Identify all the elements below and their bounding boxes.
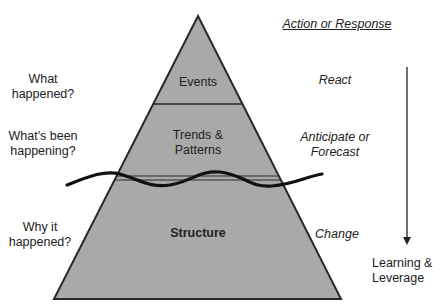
layer-label-structure: Structure <box>153 226 243 241</box>
response-change: Change <box>300 227 374 242</box>
question-whats-been-happening: What's been happening? <box>0 129 86 159</box>
question-why-it-happened: Why it happened? <box>0 220 80 250</box>
layer-label-events: Events <box>163 75 233 90</box>
arrow-label-learning-leverage: Learning & Leverage <box>372 256 442 286</box>
response-anticipate-forecast: Anticipate or Forecast <box>290 130 380 160</box>
learning-arrow-head <box>403 237 411 245</box>
response-header: Action or Response <box>280 17 394 32</box>
layer-label-trends-patterns: Trends & Patterns <box>158 128 238 158</box>
question-what-happened: What happened? <box>0 72 86 102</box>
response-react: React <box>300 73 370 88</box>
